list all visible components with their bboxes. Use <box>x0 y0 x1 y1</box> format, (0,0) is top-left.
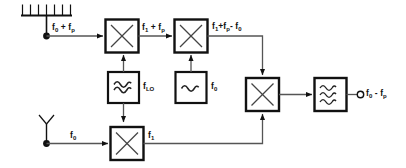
label-antenna-output: f0 <box>70 131 76 140</box>
label-mixer1-output: f1 + fp <box>142 23 165 32</box>
mixer-4 <box>111 127 144 160</box>
mixer-3 <box>246 78 279 111</box>
mixer-1 <box>106 20 139 53</box>
antenna-source <box>39 115 54 144</box>
label-comb-output: f0 + fp <box>52 23 75 32</box>
output-terminal <box>357 91 363 97</box>
label-oscillator-f0: f0 <box>211 82 217 91</box>
oscillator-lo <box>108 72 139 103</box>
mixer-2 <box>175 20 208 53</box>
label-final-output: f0 - fp <box>366 89 387 98</box>
wire-mixer2-to-mixer3 <box>208 36 263 75</box>
filter-output <box>315 78 347 111</box>
wire-mixer4-to-mixer3 <box>144 114 263 144</box>
label-mixer4-output: f1 <box>148 131 154 140</box>
label-mixer2-output: f1+fp- f0 <box>212 22 242 31</box>
oscillator-f0 <box>176 72 207 103</box>
diagram-canvas: f0 + fp f1 + fp f1+fp- f0 fLO f0 f0 f1 f… <box>0 0 406 168</box>
label-oscillator-lo: fLO <box>143 82 154 91</box>
